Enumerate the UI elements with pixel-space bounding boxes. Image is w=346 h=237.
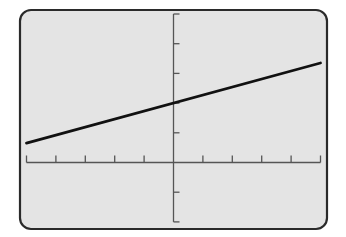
line-graph: [0, 0, 346, 237]
graphing-calculator-screen: [0, 0, 346, 237]
